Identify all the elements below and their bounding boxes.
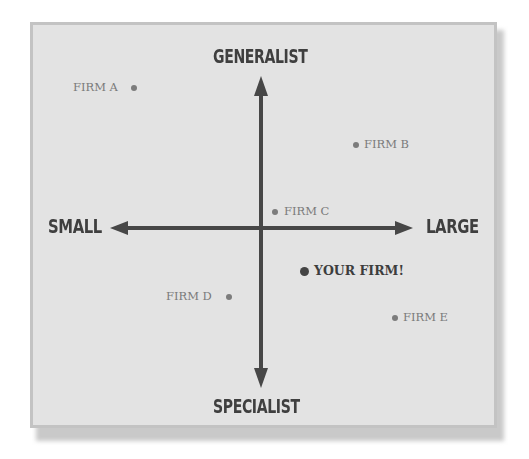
firm-c-label: FIRM C xyxy=(284,206,329,218)
firm-e-label: FIRM E xyxy=(403,312,448,324)
arrow-up-icon xyxy=(254,76,268,96)
label-generalist: GENERALIST xyxy=(213,47,307,66)
arrow-left-icon xyxy=(110,221,128,235)
arrow-right-icon xyxy=(395,221,413,235)
firm-d-dot xyxy=(226,294,232,300)
firm-a-dot xyxy=(131,85,137,91)
horizontal-axis-line xyxy=(124,226,398,230)
firm-c-dot xyxy=(272,209,278,215)
vertical-axis-line xyxy=(259,92,263,374)
your-firm-dot xyxy=(300,267,309,276)
label-specialist: SPECIALIST xyxy=(213,397,300,416)
firm-d-label: FIRM D xyxy=(166,291,212,303)
label-small: SMALL xyxy=(48,217,102,236)
firm-b-dot xyxy=(353,142,359,148)
your-firm-label: YOUR FIRM! xyxy=(314,265,404,278)
arrow-down-icon xyxy=(254,368,268,388)
firm-b-label: FIRM B xyxy=(364,139,409,151)
label-large: LARGE xyxy=(426,217,479,236)
firm-a-label: FIRM A xyxy=(73,82,118,94)
firm-e-dot xyxy=(392,315,398,321)
